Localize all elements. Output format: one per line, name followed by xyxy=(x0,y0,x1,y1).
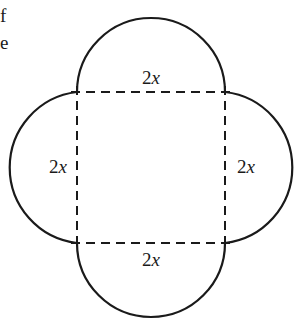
label-bottom: 2x xyxy=(142,249,161,270)
label-right: 2x xyxy=(237,156,256,177)
label-left: 2x xyxy=(49,156,68,177)
label-top: 2x xyxy=(142,67,161,88)
dashed-square xyxy=(71,86,231,249)
right-semicircle xyxy=(225,92,292,243)
square-with-semicircles-diagram: 2x 2x 2x 2x xyxy=(0,0,295,325)
